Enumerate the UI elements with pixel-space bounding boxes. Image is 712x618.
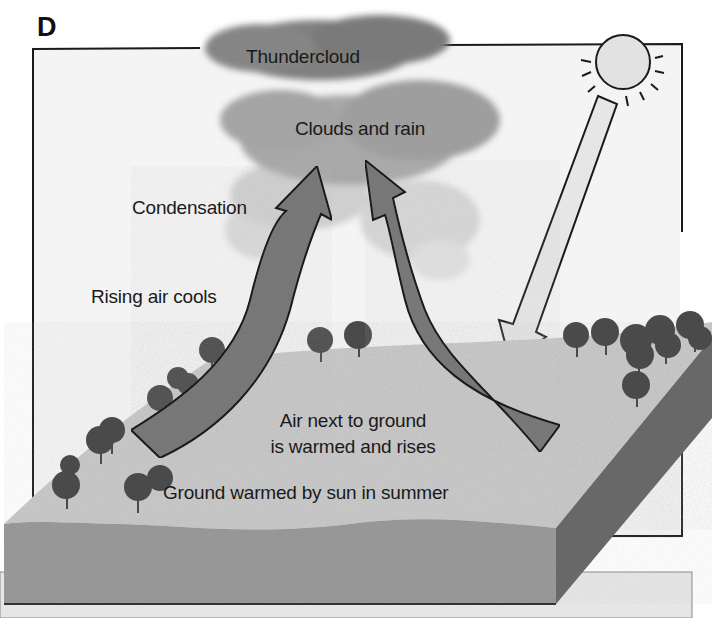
diagram-stage: D Thundercloud Clouds and rain Condensat… xyxy=(0,0,712,618)
ground-front xyxy=(4,519,556,604)
label-rising-air-cools: Rising air cools xyxy=(91,287,217,308)
label-ground-warmed: Ground warmed by sun in summer xyxy=(163,483,448,504)
label-thundercloud: Thundercloud xyxy=(246,47,360,68)
panel-letter: D xyxy=(37,12,57,43)
label-air-next-to-ground-line2: is warmed and rises xyxy=(253,437,453,458)
label-condensation: Condensation xyxy=(132,198,247,219)
diagram-artwork xyxy=(0,0,712,618)
label-clouds-and-rain: Clouds and rain xyxy=(295,119,425,140)
label-air-next-to-ground-line1: Air next to ground xyxy=(253,411,453,432)
